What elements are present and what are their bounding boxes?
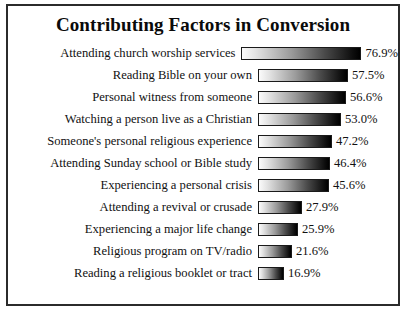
bar (258, 91, 346, 104)
bar (258, 201, 302, 214)
bar-value-label: 21.6% (296, 244, 329, 259)
bar-category-label: Watching a person live as a Christian (12, 112, 258, 127)
bar-category-label: Personal witness from someone (12, 90, 258, 105)
bar-category-label: Attending Sunday school or Bible study (12, 156, 258, 171)
bar-track: 56.6% (258, 86, 398, 108)
bar-value-label: 46.4% (334, 156, 367, 171)
bar (258, 135, 332, 148)
bar (258, 113, 341, 126)
bar-track: 16.9% (258, 262, 398, 284)
bar (258, 69, 348, 82)
bar-value-label: 45.6% (333, 178, 366, 193)
bar-row: Religious program on TV/radio21.6% (12, 240, 398, 262)
bar-row: Attending church worship services76.9% (12, 42, 398, 64)
bar-category-label: Experiencing a personal crisis (12, 178, 258, 193)
bar-track: 76.9% (241, 42, 398, 64)
bar-category-label: Experiencing a major life change (12, 222, 258, 237)
bar-track: 46.4% (258, 152, 398, 174)
bar-row: Personal witness from someone56.6% (12, 86, 398, 108)
bar (258, 245, 292, 258)
bar-row: Attending a revival or crusade27.9% (12, 196, 398, 218)
bar-track: 47.2% (258, 130, 398, 152)
chart-title: Contributing Factors in Conversion (8, 14, 398, 36)
bar-row: Attending Sunday school or Bible study46… (12, 152, 398, 174)
bar (258, 267, 284, 280)
bar-category-label: Religious program on TV/radio (12, 244, 258, 259)
bar-value-label: 16.9% (288, 266, 321, 281)
bar-category-label: Someone's personal religious experience (12, 134, 258, 149)
bar-value-label: 56.6% (350, 90, 383, 105)
bar-track: 21.6% (258, 240, 398, 262)
bar-row: Watching a person live as a Christian53.… (12, 108, 398, 130)
bar-value-label: 76.9% (365, 46, 398, 61)
bar (258, 179, 329, 192)
bar-track: 25.9% (258, 218, 398, 240)
bar-value-label: 53.0% (345, 112, 378, 127)
bar-track: 45.6% (258, 174, 398, 196)
bar-value-label: 27.9% (306, 200, 339, 215)
bar-category-label: Reading Bible on your own (12, 68, 258, 83)
bar-value-label: 25.9% (302, 222, 335, 237)
bar-row: Experiencing a major life change25.9% (12, 218, 398, 240)
bar-category-label: Attending church worship services (12, 46, 241, 61)
bar-track: 27.9% (258, 196, 398, 218)
bar-track: 57.5% (258, 64, 398, 86)
bar-rows: Attending church worship services76.9%Re… (8, 42, 398, 284)
bar-row: Reading Bible on your own57.5% (12, 64, 398, 86)
bar (258, 223, 298, 236)
bar-category-label: Reading a religious booklet or tract (12, 266, 258, 281)
bar-value-label: 47.2% (336, 134, 369, 149)
chart-frame: Contributing Factors in Conversion Atten… (6, 4, 400, 306)
bar-category-label: Attending a revival or crusade (12, 200, 258, 215)
bar-row: Reading a religious booklet or tract16.9… (12, 262, 398, 284)
bar-value-label: 57.5% (352, 68, 385, 83)
bar-row: Experiencing a personal crisis45.6% (12, 174, 398, 196)
bar-track: 53.0% (258, 108, 398, 130)
bar (241, 47, 361, 60)
bar-row: Someone's personal religious experience4… (12, 130, 398, 152)
bar (258, 157, 330, 170)
